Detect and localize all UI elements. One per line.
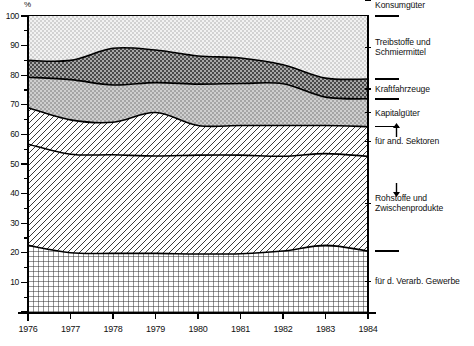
y-tick-label: 80 [0,71,19,79]
x-tick-label: 1976 [8,324,48,334]
plot-top-rule [28,15,369,16]
legend-tick [365,281,371,282]
x-tick [70,313,71,319]
x-tick-label: 1984 [348,324,388,334]
band-konsumgueter [28,245,368,312]
legend-label: für and. Sektoren [375,136,473,146]
legend-label: für d. Verarb. Gewerbe [375,276,473,286]
y-minor-tick [24,237,27,238]
x-tick [197,313,198,319]
y-tick [21,252,27,253]
chart-figure: % [0,0,474,346]
plot-area [28,16,368,312]
y-tick-label: 10 [0,278,19,286]
legend-arrow-up [392,123,401,137]
legend-arrow-down [392,183,401,197]
legend-tick [365,88,371,89]
y-tick [21,15,27,16]
x-tick [325,313,326,319]
y-tick-label: 50 [0,160,19,168]
x-tick-label: 1977 [51,324,91,334]
legend-label-line: für d. Verarb. Gewerbe [375,276,473,286]
legend-label: Konsumgüter [375,0,473,10]
legend-tick [365,203,371,204]
y-tick [21,311,27,312]
legend-label-line: Treibstoffe und [375,37,473,47]
y-minor-tick [24,30,27,31]
y-minor-tick [24,149,27,150]
y-tick-label: 90 [0,41,19,49]
x-tick [282,313,283,319]
legend-label-line: Konsumgüter [375,0,473,10]
y-minor-tick [24,89,27,90]
y-tick-label: 20 [0,248,19,256]
y-tick [21,104,27,105]
legend-label-line: Kapitalgüter [375,108,473,118]
legend-label-line: Schmiermittel [375,47,473,57]
legend-rule [375,250,399,252]
band-rohstoffe-verarb-gewerbe [28,144,368,254]
legend-tick [365,47,371,48]
y-tick [21,193,27,194]
x-tick-label: 1982 [263,324,303,334]
y-tick-label: 100 [0,12,19,20]
x-tick [367,313,368,319]
y-minor-tick [24,267,27,268]
legend-label-line: Kraftfahrzeuge [375,84,473,94]
y-tick [21,282,27,283]
x-tick-label: 1981 [221,324,261,334]
y-tick-label: 70 [0,100,19,108]
y-tick [21,163,27,164]
y-axis-line [27,15,29,321]
legend-rule [375,15,399,17]
y-minor-tick [24,297,27,298]
legend-label: Kraftfahrzeuge [375,84,473,94]
legend-label: Treibstoffe undSchmiermittel [375,37,473,57]
y-tick-label: 40 [0,189,19,197]
legend-rule [375,98,399,100]
y-minor-tick [24,178,27,179]
legend-tick [365,141,371,142]
x-tick-label: 1983 [306,324,346,334]
y-minor-tick [24,119,27,120]
x-tick-label: 1980 [178,324,218,334]
x-tick [27,313,28,319]
y-tick-label: 30 [0,219,19,227]
legend-label-line: Rohstoffe und [375,193,473,203]
x-tick [112,313,113,319]
y-tick [21,45,27,46]
y-minor-tick [24,60,27,61]
legend-tick [365,112,371,113]
y-tick [21,134,27,135]
y-tick-label: 60 [0,130,19,138]
y-tick [21,223,27,224]
x-tick-label: 1979 [136,324,176,334]
plot-right-rule [367,15,369,313]
y-axis-unit-label: % [24,1,31,9]
legend-label-line: Zwischenprodukte [375,203,473,213]
legend-tick [365,0,371,1]
legend-label-line: für and. Sektoren [375,136,473,146]
y-minor-tick [24,208,27,209]
x-tick-label: 1978 [93,324,133,334]
legend-label: Kapitalgüter [375,108,473,118]
legend-rule [375,78,399,80]
y-tick [21,75,27,76]
x-tick [155,313,156,319]
legend-label: Rohstoffe undZwischenprodukte [375,193,473,213]
stacked-area-series [28,16,368,312]
x-tick [240,313,241,319]
